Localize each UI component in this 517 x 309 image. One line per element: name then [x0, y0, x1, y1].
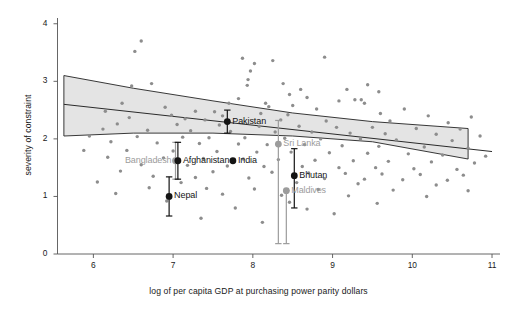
y-tick-label-3: 3: [32, 75, 48, 85]
country-label-sri-lanka: Sri Lanka: [283, 138, 320, 148]
country-label-bhutan: Bhutan: [299, 170, 327, 180]
x-tick-label-10: 10: [400, 260, 424, 270]
y-tick-label-2: 2: [32, 133, 48, 143]
country-label-nepal: Nepal: [174, 190, 197, 200]
country-label-bangladesh: Bangladesh: [125, 155, 172, 165]
chart-figure: 6789101101234 PakistanBangladeshAfghanis…: [0, 0, 517, 309]
x-tick-label-8: 8: [241, 260, 265, 270]
country-label-maldives: Maldives: [291, 185, 326, 195]
country-label-india: India: [238, 155, 257, 165]
country-label-afghanistan: Afghanistan: [183, 155, 229, 165]
x-tick-label-6: 6: [81, 260, 105, 270]
x-axis-title: log of per capita GDP at purchasing powe…: [0, 286, 517, 296]
x-tick-label-9: 9: [321, 260, 345, 270]
y-tick-label-0: 0: [32, 248, 48, 258]
y-tick-label-1: 1: [32, 190, 48, 200]
x-tick-label-11: 11: [480, 260, 504, 270]
x-tick-label-7: 7: [161, 260, 185, 270]
country-label-pakistan: Pakistan: [232, 116, 266, 126]
y-axis-title: severity of constraint: [23, 55, 33, 215]
y-tick-label-4: 4: [32, 18, 48, 28]
